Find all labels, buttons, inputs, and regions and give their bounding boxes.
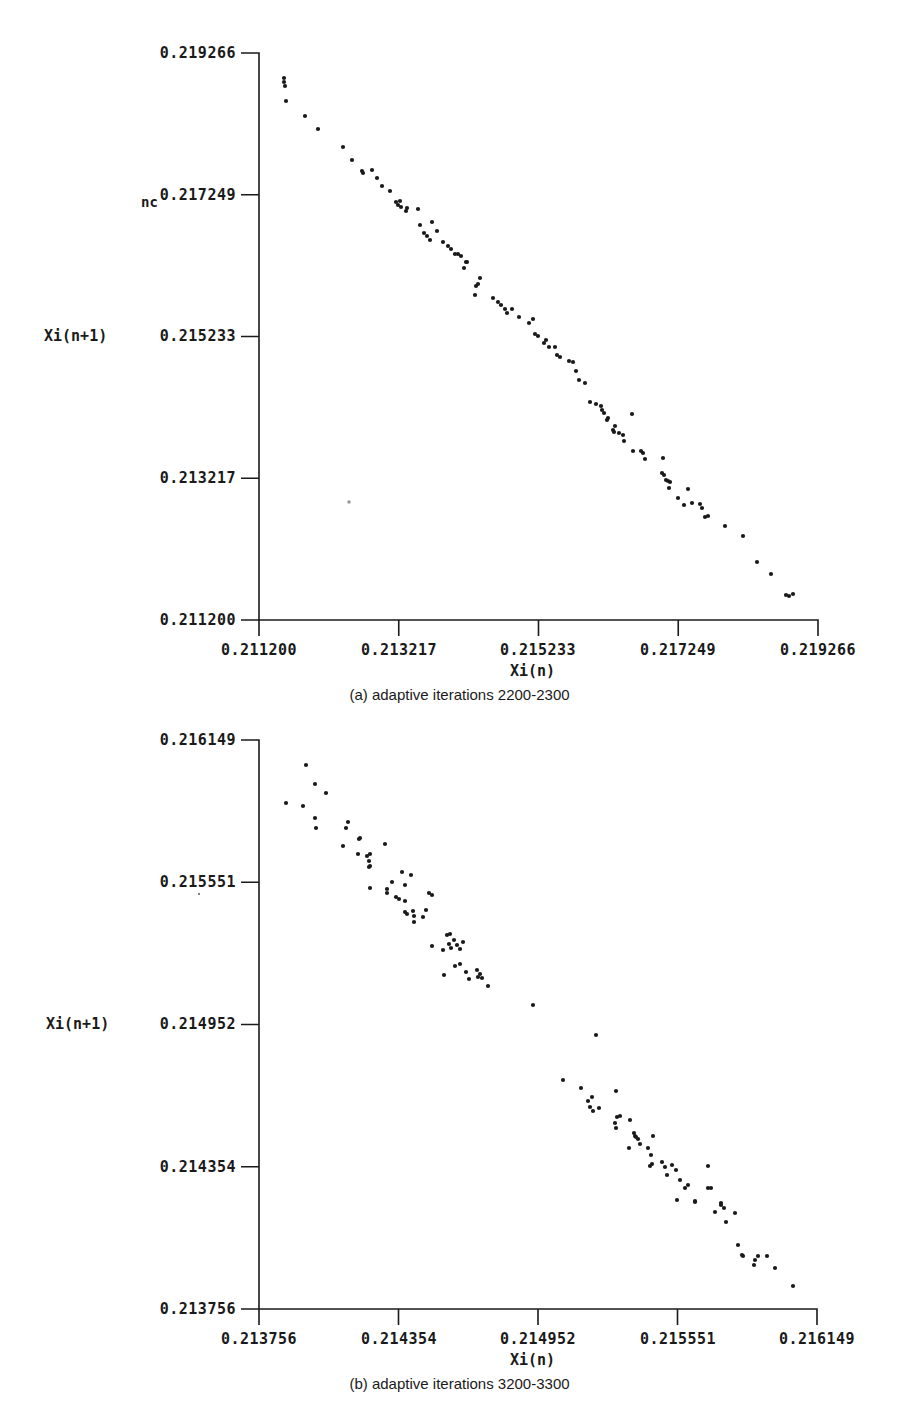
data-point: [723, 524, 727, 528]
data-point: [385, 891, 389, 895]
data-point: [499, 303, 503, 307]
data-point: [606, 416, 610, 420]
data-point: [690, 501, 694, 505]
data-point: [344, 826, 348, 830]
data-point: [561, 1078, 565, 1082]
data-point: [558, 355, 562, 359]
data-point: [341, 844, 345, 848]
data-point: [648, 1164, 652, 1168]
data-point: [682, 503, 686, 507]
data-point: [446, 244, 450, 248]
data-point: [755, 560, 759, 564]
data-point: [586, 1099, 590, 1103]
data-point: [706, 1164, 710, 1168]
data-point: [467, 977, 471, 981]
data-point: [449, 946, 453, 950]
y-tick-label: 0.213217: [86, 469, 236, 487]
x-axis-title: Xi(n): [510, 1351, 555, 1369]
data-point: [700, 506, 704, 510]
chart-a-caption: (a) adaptive iterations 2200-2300: [0, 686, 919, 703]
data-point: [588, 400, 592, 404]
x-tick-label: 0.211200: [189, 641, 329, 659]
data-point: [590, 1095, 594, 1099]
data-point: [301, 804, 305, 808]
data-point: [430, 944, 434, 948]
x-tick-label: 0.215551: [608, 1330, 748, 1348]
data-point: [358, 836, 362, 840]
data-point: [447, 942, 451, 946]
data-point: [486, 984, 490, 988]
chart-b-axes: [241, 740, 817, 1325]
data-point: [627, 1146, 631, 1150]
data-point: [422, 231, 426, 235]
y-tick-label: 0.219266: [86, 44, 236, 62]
x-tick-label: 0.213756: [189, 1330, 329, 1348]
data-point: [787, 594, 791, 598]
data-point: [567, 359, 571, 363]
data-point: [527, 321, 531, 325]
data-point: [621, 433, 625, 437]
y-tick-label: 0.213756: [86, 1300, 236, 1318]
data-point: [713, 1210, 717, 1214]
data-point: [542, 341, 546, 345]
data-point: [398, 199, 402, 203]
data-point: [597, 1106, 601, 1110]
data-point: [706, 514, 710, 518]
data-point: [475, 968, 479, 972]
data-point: [388, 189, 392, 193]
chart-a-plot: [0, 0, 919, 715]
data-point: [313, 782, 317, 786]
data-point: [442, 973, 446, 977]
data-point: [722, 1206, 726, 1210]
data-point: [412, 914, 416, 918]
data-point: [461, 940, 465, 944]
data-point: [641, 451, 645, 455]
stray-dot: [198, 893, 200, 895]
data-point: [403, 883, 407, 887]
data-point: [668, 480, 672, 484]
data-point: [510, 307, 514, 311]
data-point: [473, 293, 477, 297]
data-point: [753, 1258, 757, 1262]
data-point: [283, 84, 287, 88]
data-point: [618, 1114, 622, 1118]
data-point: [324, 791, 328, 795]
data-point: [478, 972, 482, 976]
data-point: [638, 1142, 642, 1146]
data-point: [693, 1199, 697, 1203]
chart-b: 0.216149 0.215551 0.214952 Xi(n+1) 0.214…: [0, 715, 919, 1427]
data-point: [480, 976, 484, 980]
data-point: [612, 430, 616, 434]
data-point: [791, 592, 795, 596]
data-point: [341, 145, 345, 149]
data-point: [553, 345, 557, 349]
data-point: [617, 431, 621, 435]
data-point: [676, 496, 680, 500]
data-point: [571, 360, 575, 364]
chart-b-plot: [0, 715, 919, 1427]
data-point: [574, 369, 578, 373]
data-point: [594, 402, 598, 406]
data-point: [464, 970, 468, 974]
data-point: [698, 502, 702, 506]
data-point: [409, 873, 413, 877]
data-point: [636, 1137, 640, 1141]
data-point: [579, 1086, 583, 1090]
data-point: [765, 1254, 769, 1258]
data-point: [503, 307, 507, 311]
data-point: [686, 487, 690, 491]
chart-a: 0.219266 0.217249 nc 0.215233 Xi(n+1) 0.…: [0, 0, 919, 715]
data-point: [577, 378, 581, 382]
x-tick-label: 0.213217: [329, 641, 469, 659]
data-point: [399, 205, 403, 209]
data-point: [428, 238, 432, 242]
data-point: [667, 486, 671, 490]
data-point: [709, 1186, 713, 1190]
data-point: [599, 404, 603, 408]
data-point: [686, 1183, 690, 1187]
data-point: [630, 412, 634, 416]
data-point: [614, 1126, 618, 1130]
data-point: [458, 947, 462, 951]
data-point: [350, 158, 354, 162]
data-point: [724, 1220, 728, 1224]
